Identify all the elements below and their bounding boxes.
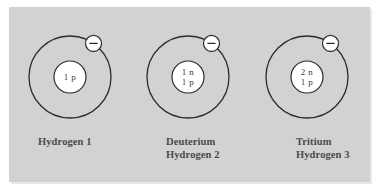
atom-caption-hydrogen-1: Hydrogen 1 [38,136,92,149]
caption-line: Hydrogen 1 [38,136,92,149]
nucleus-particle-label: 1 p [182,77,195,87]
atom-caption-tritium-hydrogen-3: Tritium Hydrogen 3 [296,136,350,161]
nucleus-particle-label: 2 n [301,67,314,77]
caption-line: Hydrogen 2 [166,149,220,162]
electron [86,35,102,51]
caption-line: Tritium [296,136,350,149]
atom-caption-deuterium-hydrogen-2: Deuterium Hydrogen 2 [166,136,220,161]
electron [204,35,220,51]
hydrogen-isotopes-figure: 1 p1 n1 p2 n1 p Hydrogen 1 Deuterium Hyd… [0,0,379,193]
nucleus-particle-label: 1 p [301,77,314,87]
caption-line: Deuterium [166,136,220,149]
atom-hydrogen-1: 1 p [29,35,111,118]
electron [323,35,339,51]
atom-tritium-hydrogen-3: 2 n1 p [266,35,348,118]
atom-deuterium-hydrogen-2: 1 n1 p [147,35,229,118]
nucleus-particle-label: 1 p [64,72,77,82]
caption-line: Hydrogen 3 [296,149,350,162]
nucleus-particle-label: 1 n [182,67,195,77]
atoms-diagram: 1 p1 n1 p2 n1 p [0,0,379,193]
